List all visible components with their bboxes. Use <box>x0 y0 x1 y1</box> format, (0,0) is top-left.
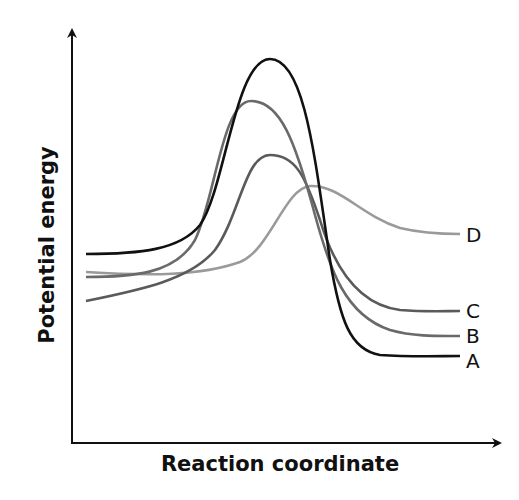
curve-b <box>86 101 460 336</box>
curve-a <box>86 59 460 356</box>
y-axis-label: Potential energy <box>35 146 59 343</box>
label-curve-b: B <box>466 324 480 348</box>
energy-diagram <box>0 0 519 500</box>
label-curve-d: D <box>466 223 481 247</box>
x-axis-label: Reaction coordinate <box>161 452 399 476</box>
curve-c <box>86 155 460 311</box>
label-curve-c: C <box>466 299 480 323</box>
curve-d <box>86 186 460 274</box>
label-curve-a: A <box>466 349 480 373</box>
